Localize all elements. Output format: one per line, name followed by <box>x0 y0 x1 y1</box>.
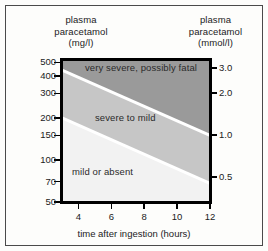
left-axis-title-line2: paracetamol <box>20 26 142 38</box>
band-regions <box>62 60 210 202</box>
left-axis-title: plasma paracetamol (mg/l) <box>20 14 142 49</box>
right-axis-title-line1: plasma <box>168 14 263 26</box>
plot-area: very severe, possibly fatal severe to mi… <box>62 60 210 202</box>
plot-top-line <box>60 58 211 61</box>
paracetamol-nomogram-figure: plasma paracetamol (mg/l) plasma paracet… <box>0 0 268 251</box>
y-axis-left-line <box>60 58 63 204</box>
left-axis-title-line3: (mg/l) <box>20 37 142 49</box>
band-label-severe-to-mild: severe to mild <box>95 112 156 123</box>
right-axis-title-line3: (mmol/l) <box>168 37 263 49</box>
band-label-very-severe: very severe, possibly fatal <box>85 62 197 73</box>
left-axis-title-line1: plasma <box>20 14 142 26</box>
y-axis-right-line <box>209 58 212 204</box>
x-axis-caption: time after ingestion (hours) <box>20 228 248 239</box>
x-axis-line <box>60 201 211 204</box>
right-axis-title-line2: paracetamol <box>168 26 263 38</box>
right-axis-title: plasma paracetamol (mmol/l) <box>168 14 263 49</box>
band-label-mild-or-absent: mild or absent <box>72 166 133 177</box>
